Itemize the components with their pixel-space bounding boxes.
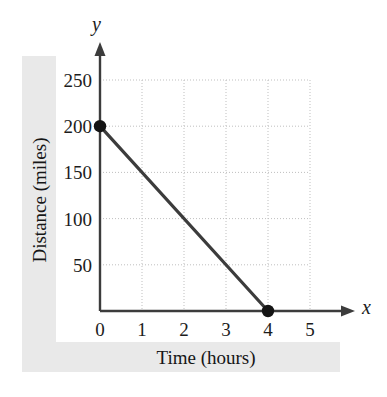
x-axis-arrowhead	[341, 306, 355, 317]
x-tick-label-0: 0	[95, 320, 105, 339]
x-axis-variable-label: x	[362, 297, 371, 317]
y-tick-label-150: 150	[64, 163, 93, 182]
y-axis-variable-label: y	[92, 14, 101, 34]
x-tick-label-4: 4	[263, 320, 273, 339]
vertical-gridlines	[142, 80, 310, 311]
chart-canvas	[0, 0, 387, 397]
distance-time-graph-figure: 50100150200250 012345 y x Distance (mile…	[0, 0, 387, 397]
x-tick-label-1: 1	[137, 320, 147, 339]
y-tick-label-200: 200	[64, 117, 93, 136]
y-tick-label-100: 100	[64, 209, 93, 228]
y-axis-arrowhead	[95, 42, 106, 56]
y-tick-label-50: 50	[73, 255, 92, 274]
data-line-series-0	[100, 126, 268, 311]
horizontal-gridlines	[100, 80, 310, 265]
data-point-marker-0	[94, 120, 106, 132]
y-axis-title: Distance (miles)	[30, 80, 49, 320]
x-axis-title: Time (hours)	[96, 348, 316, 367]
data-point-marker-1	[262, 305, 274, 317]
x-tick-label-5: 5	[305, 320, 315, 339]
y-tick-label-250: 250	[64, 71, 93, 90]
x-tick-label-2: 2	[179, 320, 189, 339]
x-tick-label-3: 3	[221, 320, 231, 339]
